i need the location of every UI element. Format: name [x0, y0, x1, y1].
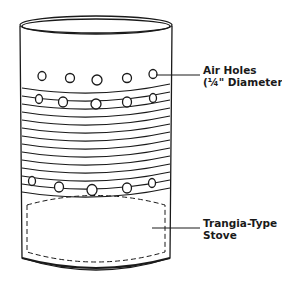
air-holes — [29, 70, 158, 196]
stove-label-line1: Trangia-Type — [203, 217, 277, 229]
air-holes-label-line1: Air Holes — [203, 64, 282, 76]
can-stove-diagram — [0, 0, 282, 286]
stove-label-line2: Stove — [203, 229, 277, 241]
air-holes-label: Air Holes (¼" Diameter) — [203, 64, 282, 88]
can-rim — [20, 16, 172, 34]
air-holes-label-line2: (¼" Diameter) — [203, 76, 282, 88]
can-body — [20, 26, 172, 270]
trangia-stove-outline — [27, 196, 165, 263]
stove-label: Trangia-Type Stove — [203, 217, 277, 241]
